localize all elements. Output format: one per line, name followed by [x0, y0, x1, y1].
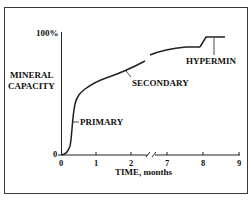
x-axis-label: TIME, months	[115, 167, 172, 177]
x-tick-1: 1	[94, 158, 98, 168]
hypermin-curve	[200, 37, 225, 47]
hypermin-label: HYPERMIN	[186, 56, 236, 66]
secondary-curve-after-break	[150, 47, 200, 55]
y-axis-label-line2: CAPACITY	[8, 81, 55, 91]
x-tick-8: 8	[201, 158, 205, 168]
secondary-curve	[106, 61, 145, 78]
x-tick-0: 0	[59, 158, 63, 168]
primary-label: PRIMARY	[80, 117, 123, 127]
secondary-label: SECONDARY	[132, 78, 189, 88]
y-top-label: 100%	[36, 28, 59, 38]
x-tick-9: 9	[237, 158, 241, 168]
y-zero-label: 0	[53, 149, 57, 159]
secondary-leader	[126, 71, 131, 77]
y-axis-label-line1: MINERAL	[10, 70, 54, 80]
